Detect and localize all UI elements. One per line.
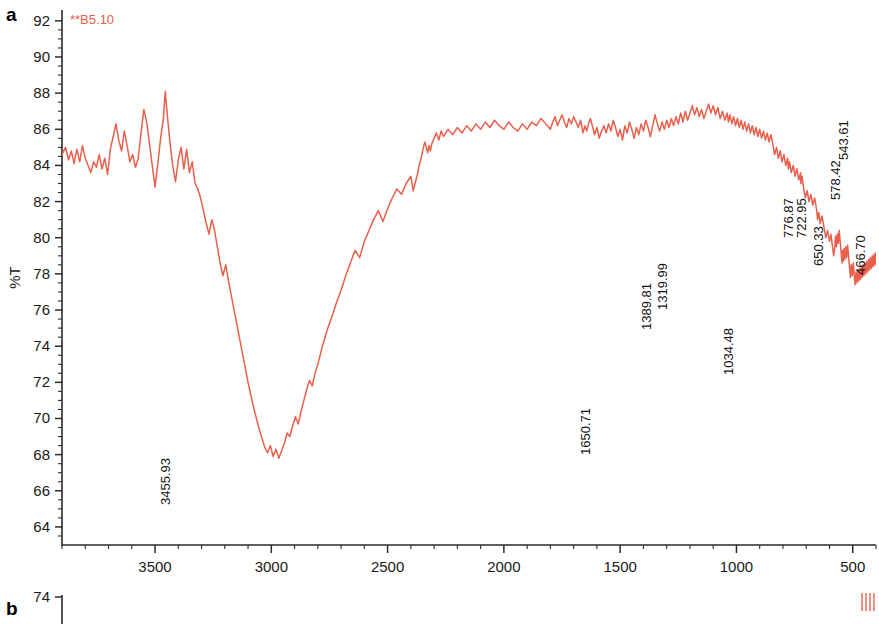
y-axis-tick-label: 92 — [33, 12, 50, 29]
y-axis-tick-label: 64 — [33, 518, 50, 535]
x-axis-tick-label: 1000 — [720, 558, 753, 575]
spectrum-svg: 9290888684828078767472706866643500300025… — [0, 0, 879, 575]
peak-annotation: 1389.81 — [639, 283, 654, 330]
y-axis-tick-label: 66 — [33, 482, 50, 499]
y-axis-tick-label: 74 — [33, 337, 50, 354]
peak-annotation: 3455.93 — [158, 458, 173, 505]
y-axis-tick-label: 86 — [33, 120, 50, 137]
ftir-spectrum-panel-a: 9290888684828078767472706866643500300025… — [0, 0, 879, 575]
spectrum-b-svg: 74 — [0, 575, 879, 624]
x-axis-tick-label: 2500 — [371, 558, 404, 575]
y-axis-tick-label: 88 — [33, 84, 50, 101]
peak-annotation: 1650.71 — [578, 408, 593, 455]
y-axis-tick-label: 82 — [33, 193, 50, 210]
panel-b-y-tick-label: 74 — [33, 588, 50, 605]
y-axis-tick-label: 84 — [33, 156, 50, 173]
x-axis-tick-label: 500 — [840, 558, 865, 575]
y-axis-tick-label: 80 — [33, 229, 50, 246]
x-axis-tick-label: 2000 — [487, 558, 520, 575]
peak-annotation: 543.61 — [836, 120, 851, 160]
x-axis-tick-label: 3000 — [255, 558, 288, 575]
spectrum-trace — [62, 91, 876, 458]
peak-annotation: 466.70 — [853, 235, 868, 275]
y-axis-tick-label: 76 — [33, 301, 50, 318]
sample-label: **B5.10 — [70, 12, 114, 27]
x-axis-tick-label: 3500 — [138, 558, 171, 575]
peak-annotation: 722.95 — [794, 198, 809, 238]
y-axis-title: %T — [6, 266, 23, 289]
y-axis-tick-label: 72 — [33, 373, 50, 390]
y-axis-tick-label: 78 — [33, 265, 50, 282]
trace-group — [62, 91, 876, 458]
peak-annotation: 1319.99 — [655, 263, 670, 310]
y-axis-tick-label: 70 — [33, 409, 50, 426]
x-axis-tick-label: 1500 — [603, 558, 636, 575]
peak-annotation: 650.33 — [811, 226, 826, 266]
peak-annotation: 578.42 — [828, 160, 843, 200]
y-axis-tick-label: 90 — [33, 48, 50, 65]
plot-axes — [62, 10, 876, 545]
ftir-spectrum-panel-b: 74 — [0, 575, 879, 624]
peak-annotation: 1034.48 — [721, 328, 736, 375]
y-axis-tick-label: 68 — [33, 446, 50, 463]
